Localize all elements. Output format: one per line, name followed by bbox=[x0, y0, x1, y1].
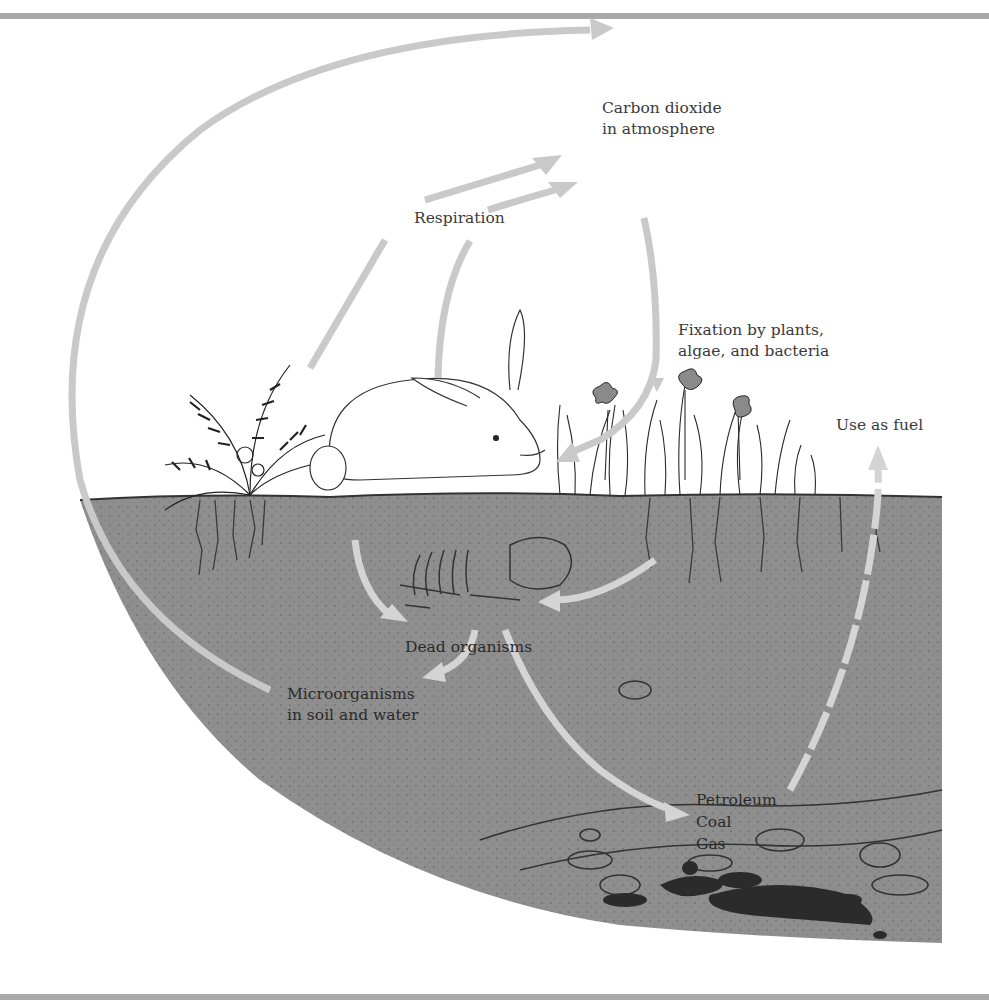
label-respiration: Respiration bbox=[414, 208, 505, 229]
fern-icon bbox=[165, 365, 325, 510]
flowers bbox=[593, 369, 751, 417]
label-carbon-dioxide-atmosphere: Carbon dioxide in atmosphere bbox=[602, 98, 722, 140]
label-fixation: Fixation by plants, algae, and bacteria bbox=[678, 320, 829, 362]
soil-cross-section bbox=[80, 493, 942, 943]
arrow-respiration-2 bbox=[488, 190, 555, 210]
arrow-rabbit-respiration bbox=[438, 241, 470, 378]
label-gas: Gas bbox=[696, 834, 726, 855]
label-dead-organisms: Dead organisms bbox=[405, 637, 532, 658]
label-petroleum: Petroleum bbox=[696, 790, 777, 811]
rabbit-icon bbox=[310, 310, 545, 490]
bottom-rule bbox=[0, 994, 989, 1000]
label-use-as-fuel: Use as fuel bbox=[836, 415, 923, 436]
label-microorganisms: Microorganisms in soil and water bbox=[287, 684, 418, 726]
arrow-fern-respiration bbox=[310, 240, 385, 368]
label-coal: Coal bbox=[696, 812, 731, 833]
arrow-fixation bbox=[572, 218, 656, 452]
arrow-respiration-1 bbox=[425, 165, 540, 200]
